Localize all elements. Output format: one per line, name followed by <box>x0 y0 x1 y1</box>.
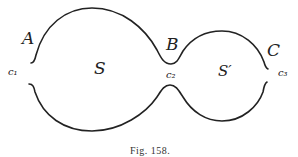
upper-contour <box>31 8 268 69</box>
double-bulb-outline <box>0 0 298 157</box>
label-C: C <box>267 42 280 59</box>
label-c1: c₁ <box>8 67 18 77</box>
label-B: B <box>166 36 179 53</box>
label-c2: c₂ <box>166 70 176 80</box>
label-A: A <box>22 30 34 47</box>
figure-caption: Fig. 158. <box>130 145 170 156</box>
label-S-prime: S′ <box>218 64 232 79</box>
lower-contour <box>29 82 267 131</box>
label-S: S <box>94 60 106 77</box>
figure-158: A c₁ S B c₂ S′ C c₃ Fig. 158. <box>0 0 298 157</box>
label-c3: c₃ <box>278 68 288 78</box>
